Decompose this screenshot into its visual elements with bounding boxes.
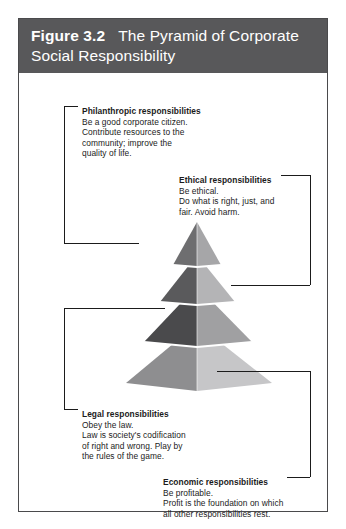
callout-philanthropic-title: Philanthropic responsibilities xyxy=(82,106,232,117)
callout-ethical-line: fair. Avoid harm. xyxy=(179,207,319,218)
callout-philanthropic-body: Be a good corporate citizen. Contribute … xyxy=(82,117,232,159)
connector-philanthropic-stub xyxy=(64,106,78,107)
figure-header-line-1: Figure 3.2The Pyramid of Corporate xyxy=(31,26,315,46)
connector-economic-lead xyxy=(217,371,310,372)
callout-ethical-body: Be ethical. Do what is right, just, and … xyxy=(179,186,319,218)
callout-ethical-line: Be ethical. xyxy=(179,186,319,197)
callout-economic-line: Profit is the foundation on which xyxy=(163,498,333,509)
pyramid-face-philanthropic-right xyxy=(197,222,221,267)
figure-title-part-2: Social Responsibility xyxy=(31,46,315,66)
connector-philanthropic-lead xyxy=(64,243,139,244)
callout-philanthropic-line: community; improve the xyxy=(82,138,232,149)
callout-legal-line: Law is society's codification xyxy=(82,430,242,441)
callout-economic-line: all other responsibilities rest. xyxy=(163,509,333,520)
callout-philanthropic-line: Be a good corporate citizen. xyxy=(82,117,232,128)
pyramid-face-philanthropic-left xyxy=(173,222,197,267)
connector-legal-lead xyxy=(64,308,165,309)
callout-ethical-line: Do what is right, just, and xyxy=(179,196,319,207)
figure-header: Figure 3.2The Pyramid of Corporate Socia… xyxy=(19,19,327,73)
callout-philanthropic-line: Contribute resources to the xyxy=(82,127,232,138)
callout-legal-line: Obey the law. xyxy=(82,420,242,431)
connector-economic-vertical xyxy=(310,371,311,477)
callout-philanthropic: Philanthropic responsibilities Be a good… xyxy=(82,106,232,159)
connector-philanthropic-vertical xyxy=(64,106,65,243)
callout-legal-body: Obey the law. Law is society's codificat… xyxy=(82,420,242,462)
figure-title-part-1: The Pyramid of Corporate xyxy=(118,27,299,44)
pyramid-diagram xyxy=(104,217,279,397)
callout-economic-line: Be profitable. xyxy=(163,488,333,499)
callout-legal-title: Legal responsibilities xyxy=(82,409,242,420)
figure-number: Figure 3.2 xyxy=(31,27,105,44)
callout-legal-line: of right and wrong. Play by xyxy=(82,441,242,452)
callout-ethical-title: Ethical responsibilities xyxy=(179,175,319,186)
connector-legal-vertical xyxy=(64,308,65,409)
callout-economic-body: Be profitable. Profit is the foundation … xyxy=(163,488,333,520)
callout-ethical: Ethical responsibilities Be ethical. Do … xyxy=(179,175,319,217)
connector-ethical-lead xyxy=(231,285,310,286)
connector-legal-stub xyxy=(64,409,78,410)
figure-container: Figure 3.2The Pyramid of Corporate Socia… xyxy=(18,18,328,512)
callout-legal: Legal responsibilities Obey the law. Law… xyxy=(82,409,242,462)
callout-economic: Economic responsibilities Be profitable.… xyxy=(163,477,333,519)
callout-philanthropic-line: quality of life. xyxy=(82,148,232,159)
callout-economic-title: Economic responsibilities xyxy=(163,477,333,488)
callout-legal-line: the rules of the game. xyxy=(82,451,242,462)
